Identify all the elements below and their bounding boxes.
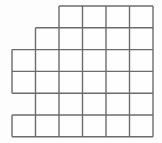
- grid-cell: [59, 6, 83, 28]
- grid-cell: [36, 71, 60, 93]
- grid-canvas: [0, 0, 162, 143]
- grid-cell: [130, 50, 154, 72]
- grid-cell: [83, 50, 107, 72]
- grid-cell: [83, 71, 107, 93]
- grid-cell: [106, 115, 130, 137]
- grid-cell: [106, 71, 130, 93]
- grid-cell: [83, 6, 107, 28]
- grid-figure: [0, 0, 162, 143]
- grid-cell: [36, 28, 60, 50]
- grid-cell: [130, 93, 154, 115]
- grid-cell: [130, 6, 154, 28]
- grid-cell: [36, 93, 60, 115]
- grid-cell: [130, 71, 154, 93]
- grid-cell: [83, 28, 107, 50]
- grid-cell: [106, 6, 130, 28]
- grid-cell: [106, 93, 130, 115]
- grid-cell: [130, 115, 154, 137]
- grid-cell: [59, 71, 83, 93]
- grid-cell: [36, 115, 60, 137]
- grid-cell: [106, 50, 130, 72]
- grid-cell: [83, 93, 107, 115]
- grid-cell: [59, 93, 83, 115]
- grid-cell: [12, 115, 36, 137]
- grid-cell: [106, 28, 130, 50]
- grid-cell: [130, 28, 154, 50]
- grid-cell: [12, 71, 36, 93]
- grid-cell: [12, 50, 36, 72]
- grid-cell: [36, 50, 60, 72]
- grid-cell: [59, 50, 83, 72]
- grid-cell: [59, 115, 83, 137]
- grid-cell: [59, 28, 83, 50]
- grid-cell: [83, 115, 107, 137]
